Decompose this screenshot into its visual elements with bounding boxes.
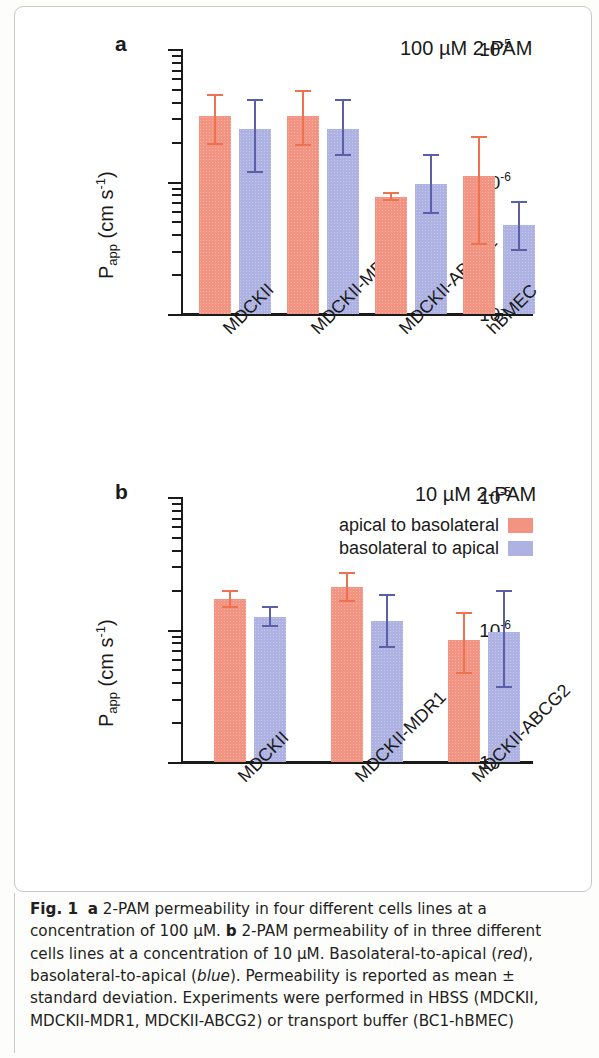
panel_a-y-tick-minor bbox=[172, 62, 181, 64]
panel_b-y-tick-minor bbox=[172, 503, 181, 505]
panel_b-y-tick-minor bbox=[172, 682, 181, 684]
error-cap-bottom bbox=[247, 171, 263, 173]
panel_b-y-tick-minor bbox=[172, 650, 181, 652]
panel_b-y-tick-minor bbox=[172, 566, 181, 568]
panel_a-y-tick-minor bbox=[172, 202, 181, 204]
panel_a-y-tick-minor bbox=[172, 70, 181, 72]
error-cap-top bbox=[379, 594, 395, 596]
panel-a-y-axis bbox=[181, 49, 183, 314]
error-cap-top bbox=[456, 612, 472, 614]
bar-a-2-0 bbox=[375, 197, 407, 314]
figure-caption: Fig. 1 a 2-PAM permeability in four diff… bbox=[30, 898, 575, 1032]
panel_b-y-tick-major bbox=[168, 630, 181, 632]
panel_a-y-tick-major bbox=[168, 314, 181, 316]
error-cap-top bbox=[335, 99, 351, 101]
panel-a-plot-area: 10-510-610-7MDCKIIMDCKII-MDR1MDCKII-ABCG… bbox=[181, 49, 533, 314]
panel_a-y-tick-major bbox=[168, 182, 181, 184]
error-cap-bottom bbox=[423, 212, 439, 214]
panel_b-y-tick-major bbox=[168, 497, 181, 499]
error-bar-a-1-1 bbox=[342, 99, 344, 156]
panel-b-letter: b bbox=[115, 481, 128, 502]
panel_b-y-tick-label: 10-5 bbox=[479, 485, 511, 508]
panel_a-y-tick-minor bbox=[172, 188, 181, 190]
panel_a-y-tick-minor bbox=[172, 142, 181, 144]
error-bar-a-0-1 bbox=[254, 99, 256, 174]
error-cap-top bbox=[207, 94, 223, 96]
panel_a-y-tick-minor bbox=[172, 194, 181, 196]
bar-b-0-0 bbox=[214, 599, 246, 762]
error-cap-bottom bbox=[207, 143, 223, 145]
x-tick-label-b-2: MDCKII-ABCG2 bbox=[468, 680, 575, 787]
panel_a-y-tick-minor bbox=[172, 118, 181, 120]
error-bar-a-2-1 bbox=[430, 154, 432, 213]
panel-b-y-axis-title: Papp (cm s-1) bbox=[93, 619, 120, 727]
panel_a-y-tick-minor bbox=[172, 55, 181, 57]
error-cap-top bbox=[383, 192, 399, 194]
error-cap-top bbox=[511, 201, 527, 203]
panel_b-y-tick-minor bbox=[172, 659, 181, 661]
panel_a-y-tick-minor bbox=[172, 274, 181, 276]
error-cap-bottom bbox=[335, 154, 351, 156]
panel_b-y-tick-minor bbox=[172, 636, 181, 638]
panel_b-y-tick-minor bbox=[172, 722, 181, 724]
error-cap-top bbox=[247, 99, 263, 101]
error-cap-bottom bbox=[222, 606, 238, 608]
error-bar-b-2-1 bbox=[503, 590, 505, 689]
panel_a-y-tick-major bbox=[168, 49, 181, 51]
error-cap-top bbox=[262, 606, 278, 608]
error-bar-a-2-0 bbox=[390, 192, 392, 202]
panel_b-y-tick-minor bbox=[172, 510, 181, 512]
error-bar-b-0-0 bbox=[229, 590, 231, 609]
error-cap-bottom bbox=[383, 199, 399, 201]
panel_b-y-tick-minor bbox=[172, 590, 181, 592]
error-cap-top bbox=[339, 572, 355, 574]
error-cap-top bbox=[471, 136, 487, 138]
error-cap-bottom bbox=[471, 243, 487, 245]
panel_b-y-tick-minor bbox=[172, 699, 181, 701]
error-cap-bottom bbox=[456, 672, 472, 674]
panel-b-y-axis bbox=[181, 497, 183, 762]
error-cap-top bbox=[423, 154, 439, 156]
error-cap-top bbox=[496, 590, 512, 592]
error-cap-bottom bbox=[496, 686, 512, 688]
panel_a-y-tick-minor bbox=[172, 89, 181, 91]
error-cap-bottom bbox=[379, 646, 395, 648]
panel_a-y-tick-minor bbox=[172, 78, 181, 80]
panel_a-y-tick-minor bbox=[172, 234, 181, 236]
panel_a-y-tick-minor bbox=[172, 221, 181, 223]
error-bar-a-0-0 bbox=[214, 94, 216, 145]
panel_a-y-tick-minor bbox=[172, 251, 181, 253]
bar-b-1-0 bbox=[331, 587, 363, 762]
panel_a-y-tick-label: 10-5 bbox=[479, 37, 511, 60]
panel_a-y-tick-minor bbox=[172, 102, 181, 104]
error-bar-b-0-1 bbox=[269, 606, 271, 627]
error-cap-bottom bbox=[511, 249, 527, 251]
error-cap-bottom bbox=[339, 600, 355, 602]
panel_b-y-tick-minor bbox=[172, 537, 181, 539]
error-bar-b-2-0 bbox=[463, 612, 465, 674]
error-bar-a-3-1 bbox=[518, 201, 520, 251]
error-cap-bottom bbox=[262, 625, 278, 627]
panel_a-y-tick-minor bbox=[172, 211, 181, 213]
bar-a-0-0 bbox=[199, 116, 231, 314]
error-bar-b-1-0 bbox=[346, 572, 348, 602]
panel_b-y-tick-major bbox=[168, 762, 181, 764]
error-cap-top bbox=[222, 590, 238, 592]
error-bar-b-1-1 bbox=[386, 594, 388, 648]
error-cap-bottom bbox=[295, 144, 311, 146]
figure-page: a 100 µM 2-PAM Papp (cm s-1) 10-510-610-… bbox=[0, 0, 599, 1058]
panel_b-y-tick-minor bbox=[172, 518, 181, 520]
panel-b-plot-area: 10-510-610-7MDCKIIMDCKII-MDR1MDCKII-ABCG… bbox=[181, 497, 533, 762]
panel-a-letter: a bbox=[115, 33, 127, 54]
panel_b-y-tick-minor bbox=[172, 669, 181, 671]
panel-a-y-axis-title: Papp (cm s-1) bbox=[93, 171, 120, 279]
panel-b: b 10 µM 2-PAM apical to basolateralbasol… bbox=[15, 459, 591, 889]
caption-side-rule bbox=[14, 893, 15, 1053]
error-cap-top bbox=[295, 90, 311, 92]
figure-card: a 100 µM 2-PAM Papp (cm s-1) 10-510-610-… bbox=[14, 6, 592, 892]
panel_b-y-tick-minor bbox=[172, 642, 181, 644]
panel_b-y-tick-minor bbox=[172, 526, 181, 528]
error-bar-a-1-0 bbox=[302, 90, 304, 146]
panel-a: a 100 µM 2-PAM Papp (cm s-1) 10-510-610-… bbox=[15, 11, 591, 441]
panel_b-y-tick-minor bbox=[172, 550, 181, 552]
